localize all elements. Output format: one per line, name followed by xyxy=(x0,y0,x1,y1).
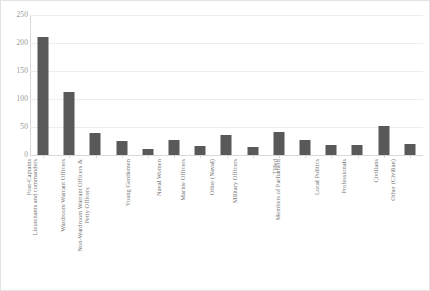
y-tick-label-150: 150 xyxy=(4,67,28,75)
x-tick xyxy=(96,155,97,158)
bar[interactable] xyxy=(404,144,415,155)
bar[interactable] xyxy=(169,140,180,155)
x-axis-label: Other (Civilian) xyxy=(389,159,396,201)
x-label-slot: Professionals xyxy=(344,159,370,287)
x-tick xyxy=(253,155,254,158)
bar-slot xyxy=(56,15,82,155)
bar[interactable] xyxy=(352,145,363,155)
y-tick-label-200: 200 xyxy=(4,39,28,47)
bar[interactable] xyxy=(195,146,206,155)
x-label-slot: Military Officers xyxy=(240,159,266,287)
x-axis-label-line: Professionals xyxy=(340,159,347,194)
bar-slot xyxy=(213,15,239,155)
x-axis-label-line: Petty Officers xyxy=(82,159,89,252)
x-axis-label-line: Local Politics xyxy=(313,159,320,195)
x-axis-label-line: Other (Civilian) xyxy=(389,159,396,201)
x-axis-label-line: Members of Parliament xyxy=(274,159,281,220)
x-axis-label: Wardroom Warrant Officers xyxy=(59,159,66,232)
x-axis-label: Civilians xyxy=(372,159,379,183)
bar[interactable] xyxy=(247,147,258,155)
bar-slot xyxy=(187,15,213,155)
x-axis-label: Military Officers xyxy=(231,159,238,203)
bar[interactable] xyxy=(326,145,337,155)
x-tick xyxy=(384,155,385,158)
bar[interactable] xyxy=(273,132,284,155)
bar[interactable] xyxy=(221,135,232,155)
bar[interactable] xyxy=(90,133,101,155)
x-tick xyxy=(122,155,123,158)
x-axis-label-line: Civilians xyxy=(372,159,379,183)
bar-slot xyxy=(135,15,161,155)
x-tick xyxy=(227,155,228,158)
bar-slot xyxy=(30,15,56,155)
bar[interactable] xyxy=(300,140,311,155)
x-tick xyxy=(410,155,411,158)
x-axis-label-line: Non-Wardroom Warrant Officers & xyxy=(75,159,82,252)
x-axis-label: Other (Naval) xyxy=(208,159,215,195)
bar-slot xyxy=(318,15,344,155)
x-tick xyxy=(174,155,175,158)
x-axis-label: Local Politics xyxy=(313,159,320,195)
x-tick xyxy=(69,155,70,158)
bar-slot xyxy=(397,15,423,155)
y-tick-label-50: 50 xyxy=(4,123,28,131)
bar-slot xyxy=(292,15,318,155)
x-axis-label: Lieutenants and commanders xyxy=(31,159,38,235)
x-axis-label-line: Other (Naval) xyxy=(208,159,215,195)
bar-slot xyxy=(344,15,370,155)
bar[interactable] xyxy=(64,92,75,155)
bar-series xyxy=(30,15,423,155)
bar-slot xyxy=(371,15,397,155)
y-axis-tick-labels: 050100150200250 xyxy=(1,1,28,291)
bar-slot xyxy=(82,15,108,155)
x-tick xyxy=(279,155,280,158)
x-axis-label: Professionals xyxy=(340,159,347,194)
bar[interactable] xyxy=(378,126,389,155)
bar-slot xyxy=(240,15,266,155)
y-tick-label-0: 0 xyxy=(4,151,28,159)
bar[interactable] xyxy=(38,37,49,155)
x-axis-label-line: Marine Officers xyxy=(179,159,186,201)
x-axis-label-line: Naval Women xyxy=(156,159,163,196)
bar[interactable] xyxy=(116,141,127,155)
x-axis-label: Marine Officers xyxy=(179,159,186,201)
x-axis-label: Non-Wardroom Warrant Officers &Petty Off… xyxy=(75,159,89,252)
x-axis-label-line: Wardroom Warrant Officers xyxy=(59,159,66,232)
chart-container: 050100150200250 Post-CaptainsLieutenants… xyxy=(0,0,430,291)
y-tick-label-100: 100 xyxy=(4,95,28,103)
x-axis-label-line: Military Officers xyxy=(231,159,238,203)
x-tick xyxy=(305,155,306,158)
y-tick-label-250: 250 xyxy=(4,11,28,19)
x-axis-label: Young Gentlemen xyxy=(124,159,131,206)
x-tick xyxy=(331,155,332,158)
x-axis-label-line: Lieutenants and commanders xyxy=(31,159,38,235)
bar-slot xyxy=(266,15,292,155)
bar-slot xyxy=(109,15,135,155)
bar-slot xyxy=(161,15,187,155)
x-tick xyxy=(358,155,359,158)
x-tick xyxy=(43,155,44,158)
x-tick xyxy=(148,155,149,158)
x-axis-category-labels: Post-CaptainsLieutenants and commandersW… xyxy=(30,159,423,287)
x-axis-label-line: Young Gentlemen xyxy=(124,159,131,206)
x-axis-label: Members of Parliament xyxy=(274,159,281,220)
x-axis-label: Naval Women xyxy=(156,159,163,196)
x-label-slot: Other (Civilian) xyxy=(397,159,423,287)
x-tick xyxy=(200,155,201,158)
